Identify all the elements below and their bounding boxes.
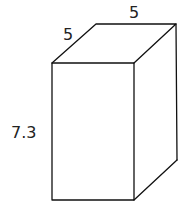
- height-label: 7.3: [11, 123, 36, 142]
- prism-diagram: 5 5 7.3: [0, 0, 190, 208]
- depth-label: 5: [63, 25, 73, 44]
- bottom-right-edge: [134, 160, 177, 200]
- back-right-edge: [176, 24, 177, 160]
- width-label: 5: [129, 3, 139, 22]
- front-face: [52, 63, 134, 200]
